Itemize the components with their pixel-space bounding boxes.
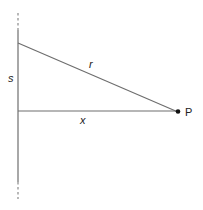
diagram-canvas: s r x P bbox=[0, 0, 203, 210]
label-point-p: P bbox=[185, 106, 192, 118]
label-s: s bbox=[8, 72, 14, 84]
point-p-dot bbox=[176, 109, 181, 114]
slant-line-r bbox=[18, 43, 178, 112]
label-r: r bbox=[89, 58, 94, 70]
label-x: x bbox=[79, 114, 86, 126]
